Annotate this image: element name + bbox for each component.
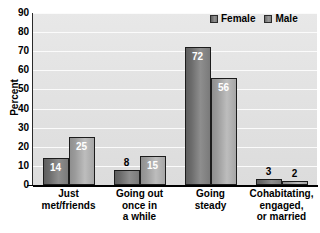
y-axis-tick-80: 80 (1, 27, 29, 37)
bars-layer: 1425815725632 (33, 13, 317, 185)
x-axis-label-line: Cohabitating, (238, 188, 320, 200)
legend-swatch-male-icon (264, 15, 272, 23)
x-axis-label-line: engaged, (238, 200, 320, 212)
x-axis-label-line: a while (96, 211, 183, 223)
y-axis-line (32, 13, 33, 185)
bar-female-2 (185, 47, 211, 185)
y-axis-tick-20: 20 (1, 142, 29, 152)
bar-value-female-1: 8 (114, 157, 140, 168)
x-axis-label-line: or married (238, 211, 320, 223)
legend-item-female[interactable]: Female (210, 14, 255, 24)
y-axis-tick-90: 90 (1, 8, 29, 18)
bar-value-male-3: 2 (282, 168, 308, 179)
bar-value-male-1: 15 (140, 160, 166, 171)
y-axis-tick-40: 40 (1, 104, 29, 114)
plot-area: 1425815725632 (33, 13, 317, 185)
bar-female-1 (114, 170, 140, 185)
legend-label-male: Male (275, 14, 297, 24)
x-axis-label-3: Cohabitating,engaged,or married (238, 188, 320, 223)
bar-chart: Percent 9080706050403020100 142581572563… (0, 0, 320, 233)
x-axis-line (33, 185, 318, 187)
legend-swatch-female-icon (210, 15, 218, 23)
legend: FemaleMale (210, 14, 298, 24)
bar-male-2 (211, 78, 237, 185)
y-axis-tick-50: 50 (1, 84, 29, 94)
y-axis-tick-70: 70 (1, 46, 29, 56)
y-axis-tick-30: 30 (1, 123, 29, 133)
legend-item-male[interactable]: Male (264, 14, 297, 24)
y-axis-zero-tick (27, 185, 33, 186)
bar-value-female-3: 3 (256, 166, 282, 177)
y-axis-tick-labels: 9080706050403020100 (0, 0, 32, 190)
bar-value-female-0: 14 (43, 162, 69, 173)
bar-value-male-0: 25 (69, 141, 95, 152)
bar-value-female-2: 72 (185, 51, 211, 62)
bar-value-male-2: 56 (211, 82, 237, 93)
y-axis-tick-60: 60 (1, 65, 29, 75)
y-axis-tick-10: 10 (1, 161, 29, 171)
legend-label-female: Female (221, 14, 255, 24)
x-axis-category-labels: Justmet/friendsGoing outonce ina whileGo… (33, 188, 317, 233)
